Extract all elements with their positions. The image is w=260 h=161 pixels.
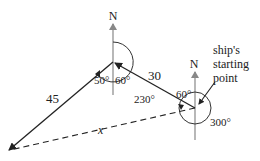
angle-50: 50° [94,74,109,86]
annotation-line3: point [213,71,238,85]
leg-label-45: 45 [46,91,59,106]
angle-60-start: 60° [176,88,191,100]
bearing-diagram: N N 45 30 x 50° 60° 230° 60° 300° ship's… [0,0,260,161]
angle-60-middle: 60° [115,74,130,86]
angle-230: 230° [134,93,155,105]
north-label-start: N [190,57,199,71]
leg-label-30: 30 [148,68,161,83]
unknown-x-label: x [97,123,104,137]
angle-300: 300° [210,116,231,128]
annotation-line2: starting [213,57,249,71]
annotation-line1: ship's [213,43,240,57]
north-label-middle: N [109,9,118,23]
